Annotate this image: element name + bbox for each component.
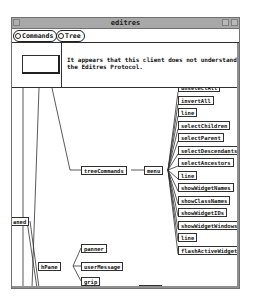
tree-label: Tree (65, 32, 81, 40)
maximize-button[interactable] (231, 19, 238, 26)
tree-node-usermessage[interactable]: userMessage (81, 262, 123, 271)
tree-node-menu-item[interactable]: selectAncestors (178, 158, 234, 167)
title-bar[interactable]: editres (12, 18, 239, 29)
message-pane: It appears that this client does not und… (12, 43, 239, 88)
pane-divider (61, 43, 62, 87)
tree-node-treecommands[interactable]: treeCommands (81, 166, 127, 175)
minimize-button[interactable] (222, 19, 229, 26)
tree-node-grip[interactable]: grip (81, 277, 100, 286)
menu-circle-icon (15, 33, 21, 39)
commands-label: Commands (22, 32, 53, 40)
commands-menu-button[interactable]: Commands (13, 30, 57, 42)
tree-node-menu-item[interactable]: showWidgetNames (178, 183, 234, 192)
window-title: editres (12, 18, 239, 28)
tree-node-menu-item[interactable]: unselectAll (178, 88, 220, 92)
tree-node-menu-item[interactable]: flashActiveWidgets (178, 246, 239, 255)
widget-tree-canvas[interactable]: aned treeCommands menu unselectAll inver… (12, 88, 239, 288)
panner-thumbnail[interactable] (22, 55, 60, 74)
tree-node-panner[interactable]: panner (81, 244, 107, 253)
tree-node-paned[interactable]: aned (12, 217, 29, 226)
tree-menu-button[interactable]: Tree (56, 30, 85, 42)
tree-node-hpane[interactable]: hPane (38, 262, 61, 271)
vertical-scrollbar[interactable] (237, 43, 239, 288)
tree-node-menu-item[interactable]: line (178, 233, 197, 242)
horizontal-scrollbar[interactable] (12, 286, 239, 288)
tree-node-menu-item[interactable]: selectChildren (178, 121, 230, 130)
tree-node-menu[interactable]: menu (144, 166, 163, 175)
tree-node-menu-item[interactable]: line (178, 108, 197, 117)
tree-node-menu-item[interactable]: showClassNames (178, 196, 230, 205)
tree-node-menu-item[interactable]: showWidgetIDs (178, 208, 227, 217)
menu-bar: Commands Tree (12, 29, 239, 43)
tree-node-menu-item[interactable]: showWidgetWindows (178, 221, 239, 230)
editres-window: editres Commands Tree It appears that th… (11, 17, 240, 289)
tree-node-menu-item[interactable]: invertAll (178, 96, 214, 105)
tree-node-menu-item[interactable]: selectDescendants (178, 146, 239, 155)
status-message: It appears that this client does not und… (67, 56, 237, 70)
menu-circle-icon (58, 33, 64, 39)
tree-node-menu-item[interactable]: line (178, 171, 197, 180)
tree-node-menu-item[interactable]: selectParent (178, 133, 224, 142)
